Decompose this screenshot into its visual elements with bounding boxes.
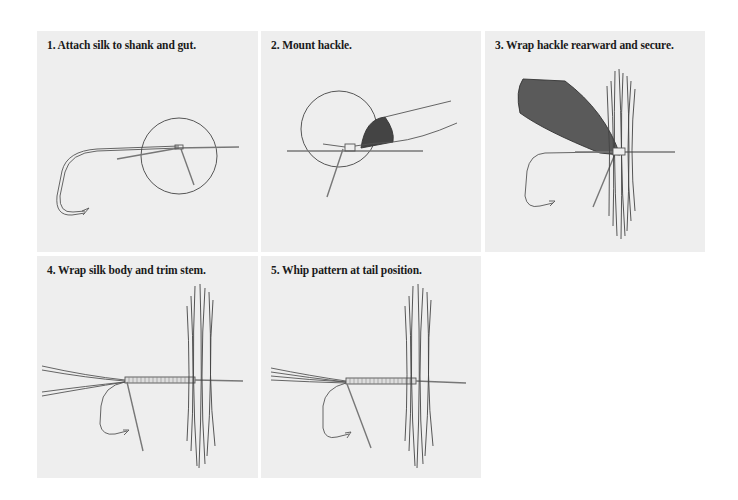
step-panel-2: 2. Mount hackle. <box>261 31 481 252</box>
step-panel-5: 5. Whip pattern at tail position. <box>261 256 481 478</box>
illustration-wrap-body <box>37 256 258 478</box>
step-panel-3: 3. Wrap hackle rearward and secure. <box>485 31 705 252</box>
illustration-whip-finish <box>261 256 481 478</box>
detail-circle <box>141 118 217 194</box>
hook-icon <box>57 146 179 215</box>
hackle-fibers-icon <box>518 79 620 155</box>
step-panel-1: 1. Attach silk to shank and gut. <box>37 31 258 252</box>
illustration-wrap-hackle <box>485 31 705 252</box>
illustration-mount-hackle <box>261 31 481 252</box>
hackle-collar-icon <box>405 284 433 468</box>
detail-circle <box>301 91 377 167</box>
hackle-collar-icon <box>187 284 215 468</box>
silk-body-icon <box>125 377 195 383</box>
illustration-attach-silk <box>37 31 258 252</box>
silk-body-icon <box>346 378 416 384</box>
step-panel-4: 4. Wrap silk body and trim stem. <box>37 256 258 478</box>
